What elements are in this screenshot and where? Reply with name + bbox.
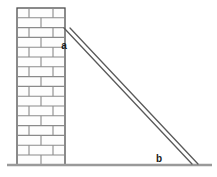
ladder-rail-upper [64, 28, 192, 164]
brick-wall [17, 8, 65, 165]
ladder [64, 28, 198, 164]
ladder-wall-diagram: a b [0, 0, 217, 177]
label-point-b: b [156, 153, 162, 164]
diagram-canvas: a b [0, 0, 217, 177]
ladder-rail-lower [70, 28, 198, 164]
label-point-a: a [61, 40, 67, 51]
